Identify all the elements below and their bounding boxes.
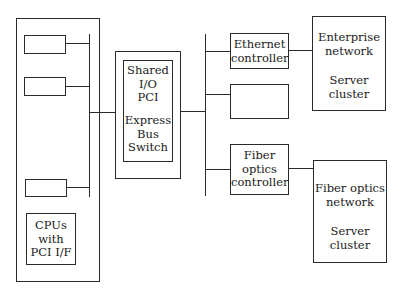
switch-label-bottom: Express Bus Switch [124,114,172,155]
bus-to-fiber-link [205,169,230,170]
fiber-network-label: Fiber optics network [314,182,386,209]
fiber-optics-network: Fiber optics network Server cluster [313,160,387,263]
fiber-server-cluster-label: Server cluster [314,225,386,252]
host-slot-2 [24,77,66,96]
fiber-optics-controller: Fiber optics controller [230,144,289,195]
enterprise-network-label: Enterprise network [313,31,385,58]
ethernet-controller: Ethernet controller [230,33,289,69]
slot-1-connector [66,43,89,44]
switch-label-top: Shared I/O PCI [124,64,172,105]
ethernet-controller-label: Ethernet controller [231,38,288,65]
slot-2-connector [66,86,89,87]
host-slot-3 [25,179,67,197]
enterprise-network: Enterprise network Server cluster [312,16,386,111]
slot-3-connector [67,187,89,188]
cpu-label: CPUs with PCI I/F [27,219,75,260]
shared-io-switch: Shared I/O PCI Express Bus Switch [123,60,173,162]
enterprise-server-cluster-label: Server cluster [313,74,385,101]
fiber-controller-label: Fiber optics controller [231,149,288,190]
io-bus [205,34,206,196]
bus-to-ethernet-link [205,51,230,52]
switch-to-io-bus-link [181,111,205,112]
empty-controller-slot [230,84,289,119]
host-slot-1 [24,35,66,54]
host-to-switch-link [89,112,116,113]
ethernet-to-enterprise-link [289,50,312,51]
fiber-to-network-link [289,168,313,169]
host-internal-bus [89,34,90,197]
cpu-box: CPUs with PCI I/F [26,213,76,265]
bus-to-empty-slot-link [205,94,230,95]
